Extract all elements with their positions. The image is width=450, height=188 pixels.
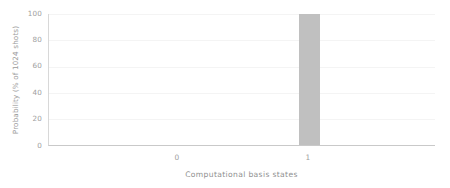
y-tick-label: 100 <box>8 10 42 18</box>
bar-state-1 <box>299 14 320 145</box>
x-axis-label: Computational basis states <box>48 170 435 179</box>
y-tick-label: 0 <box>8 142 42 150</box>
plot-area <box>48 14 435 146</box>
gridline-80 <box>49 40 435 41</box>
y-tick-label: 80 <box>8 36 42 44</box>
bar-chart-figure: Probability (% of 1024 shots) 100 80 60 … <box>0 0 450 188</box>
gridline-40 <box>49 93 435 94</box>
gridline-60 <box>49 67 435 68</box>
y-tick-label: 60 <box>8 62 42 70</box>
y-axis-label: Probability (% of 1024 shots) <box>9 0 23 160</box>
gridline-100 <box>49 14 435 15</box>
y-tick-label: 40 <box>8 89 42 97</box>
gridline-20 <box>49 119 435 120</box>
x-tick-label-0: 0 <box>157 153 197 162</box>
y-tick-label: 20 <box>8 115 42 123</box>
x-tick-label-1: 1 <box>288 153 328 162</box>
